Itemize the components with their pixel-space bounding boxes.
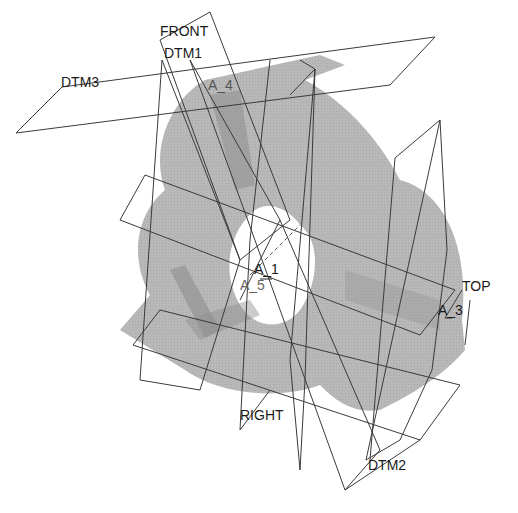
label-axis-a4[interactable]: A_4 xyxy=(208,78,233,92)
label-dtm2[interactable]: DTM2 xyxy=(368,458,406,472)
label-axis-a3[interactable]: A_3 xyxy=(438,303,463,317)
label-front[interactable]: FRONT xyxy=(160,24,208,38)
label-top[interactable]: TOP xyxy=(462,279,491,293)
label-axis-a5[interactable]: A_5 xyxy=(240,278,265,292)
label-axis-a1[interactable]: A_1 xyxy=(254,262,279,276)
label-dtm1[interactable]: DTM1 xyxy=(164,46,202,60)
cad-3d-viewport[interactable]: FRONT DTM1 DTM3 A_4 A_1 A_5 TOP A_3 RIGH… xyxy=(0,0,518,513)
label-right[interactable]: RIGHT xyxy=(240,408,284,422)
label-dtm3[interactable]: DTM3 xyxy=(61,75,99,89)
